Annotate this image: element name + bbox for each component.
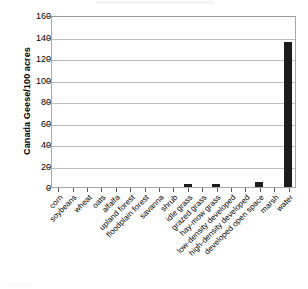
y-tick-label: 120	[5, 55, 51, 64]
y-tick-label: 140	[5, 33, 51, 42]
scan-artifact-bottom	[6, 283, 32, 287]
x-axis-labels: cornsoybeanswheatoatsalfalfaupland fores…	[51, 192, 296, 284]
bar-slot	[252, 17, 266, 187]
x-label-slot: water	[282, 192, 296, 284]
bar-slot	[195, 17, 209, 187]
bar-slot	[238, 17, 252, 187]
bar-slot	[181, 17, 195, 187]
bar-slot	[109, 17, 123, 187]
y-tick-label: 60	[5, 119, 51, 128]
bar-series	[52, 17, 295, 187]
y-axis-ticks: 020406080100120140160	[0, 16, 51, 188]
bar	[284, 42, 292, 187]
chart-figure: Canada Geese/100 acres 02040608010012014…	[0, 0, 308, 289]
bar-slot	[209, 17, 223, 187]
y-tick-label: 0	[5, 184, 51, 193]
bar	[212, 184, 220, 187]
bar-slot	[166, 17, 180, 187]
bar-slot	[138, 17, 152, 187]
bar-slot	[224, 17, 238, 187]
bar-slot	[66, 17, 80, 187]
y-tick-label: 80	[5, 98, 51, 107]
bar-slot	[81, 17, 95, 187]
y-tick-label: 100	[5, 76, 51, 85]
y-tick-label: 40	[5, 141, 51, 150]
bar-slot	[95, 17, 109, 187]
bar-slot	[123, 17, 137, 187]
y-tick-label: 160	[5, 12, 51, 21]
plot-area	[51, 16, 296, 188]
bar	[184, 184, 192, 187]
bar-slot	[152, 17, 166, 187]
y-tick-label: 20	[5, 162, 51, 171]
bar-slot	[281, 17, 295, 187]
scan-artifact-top	[96, 1, 214, 4]
bar-slot	[266, 17, 280, 187]
bar	[255, 182, 263, 187]
bar-slot	[52, 17, 66, 187]
